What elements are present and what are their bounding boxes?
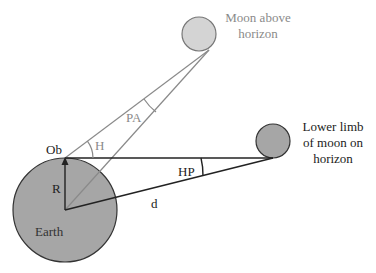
altitude-angle-arc [87, 141, 93, 158]
radius-label: R [52, 181, 61, 196]
observer-label: Ob [46, 142, 62, 157]
horizontal-parallax-label: HP [178, 164, 195, 179]
altitude-label: H [95, 138, 104, 153]
moon-above-label-line1: Moon above [225, 10, 291, 25]
distance-label: d [151, 196, 158, 211]
center-to-moon-line [65, 50, 209, 210]
parallax-diagram: Moon above horizon Lower limb of moon on… [0, 0, 376, 273]
horizontal-parallax-angle-arc [201, 158, 203, 176]
parallax-altitude-angle-arc [144, 99, 156, 112]
moon-above-horizon-circle [182, 17, 216, 51]
earth-label: Earth [35, 224, 64, 239]
observer-to-moon-line [65, 50, 209, 158]
moon-lower-label-line3: horizon [313, 151, 353, 166]
parallax-altitude-label: PA [126, 110, 142, 125]
moon-on-horizon-circle [256, 124, 290, 158]
moon-above-label-line2: horizon [238, 26, 278, 41]
moon-lower-label-line1: Lower limb [302, 119, 363, 134]
moon-lower-label-line2: of moon on [303, 135, 363, 150]
